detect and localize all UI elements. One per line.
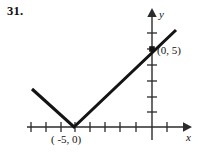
y-axis-arrowhead [147, 8, 156, 17]
graph-figure: 31. [0, 0, 202, 158]
y-intercept-point-marker [149, 46, 155, 52]
vertex-label: ( -5, 0) [51, 133, 81, 145]
x-axis-label: x [186, 131, 191, 143]
y-intercept-label: (0, 5) [157, 44, 181, 56]
coordinate-plane [0, 0, 202, 158]
y-axis-label: y [159, 8, 164, 20]
